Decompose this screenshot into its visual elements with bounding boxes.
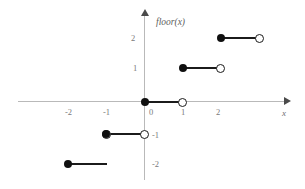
x-tick-label-neg2: -2 (65, 108, 72, 117)
x-tick-label-2: 2 (216, 108, 220, 117)
y-axis-arrow-icon (141, 9, 149, 16)
open-endpoint-0 (178, 98, 187, 107)
step-segment-0 (145, 101, 182, 103)
open-endpoint-neg1 (140, 130, 149, 139)
step-segment-2 (221, 37, 259, 39)
closed-endpoint-1 (179, 64, 187, 72)
y-axis-line (144, 14, 145, 180)
y-tick-label-2: 2 (131, 34, 135, 43)
x-tick-label-neg1: -1 (103, 108, 110, 117)
y-tick-label-1: 1 (133, 64, 137, 73)
y-tick-label-neg2: -2 (152, 160, 159, 169)
x-axis-arrow-icon (284, 97, 291, 105)
step-segment-neg2 (68, 163, 107, 165)
y-tick-label-neg1: -1 (152, 131, 159, 140)
x-tick-label-0: 0 (149, 108, 153, 117)
x-axis-label: x (282, 109, 286, 118)
closed-endpoint-neg2 (64, 160, 72, 168)
closed-endpoint-0 (141, 98, 149, 106)
open-endpoint-1 (216, 64, 225, 73)
x-tick-label-1: 1 (181, 108, 185, 117)
closed-endpoint-2 (217, 34, 225, 42)
function-label: floor(x) (156, 18, 185, 28)
open-endpoint-2 (255, 34, 264, 43)
floor-function-graph: floor(x) x 2 1 -1 -2 -2 -1 0 1 2 (0, 0, 305, 189)
step-segment-1 (183, 67, 220, 69)
closed-endpoint-neg1 (102, 130, 110, 138)
